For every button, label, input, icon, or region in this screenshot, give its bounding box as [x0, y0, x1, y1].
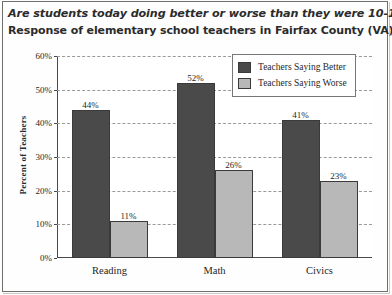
bar: 26%: [215, 170, 253, 258]
x-axis-category-label: Reading: [92, 265, 127, 276]
legend-label: Teachers Saying Worse: [258, 78, 347, 88]
bar: 11%: [110, 221, 148, 258]
bar: 41%: [282, 120, 320, 258]
y-axis-tick-label: 0%: [40, 253, 52, 263]
x-axis-category-label: Civics: [306, 265, 333, 276]
x-axis-category-label: Math: [203, 265, 225, 276]
bar: 52%: [177, 83, 215, 258]
chart-subtitle: Response of elementary school teachers i…: [8, 23, 380, 38]
y-axis-tick-label: 10%: [36, 219, 53, 229]
bar-value-label: 11%: [120, 211, 136, 221]
y-axis-tick-label: 30%: [36, 152, 53, 162]
chart-page: Are students today doing better or worse…: [0, 0, 392, 295]
bar: 23%: [320, 181, 358, 258]
legend-swatch: [238, 62, 251, 73]
legend-item: Teachers Saying Worse: [238, 75, 347, 91]
legend-item: Teachers Saying Better: [238, 59, 347, 75]
chart-legend: Teachers Saying BetterTeachers Saying Wo…: [232, 54, 356, 97]
y-axis-tick-label: 50%: [36, 85, 53, 95]
y-axis-tick-label: 40%: [36, 118, 53, 128]
bar-value-label: 26%: [225, 160, 242, 170]
bar-value-label: 44%: [82, 100, 99, 110]
bar-value-label: 41%: [292, 110, 309, 120]
y-axis-tick-label: 60%: [36, 51, 53, 61]
bar-value-label: 23%: [330, 171, 347, 181]
legend-swatch: [238, 78, 251, 89]
y-axis-tick-mark: [54, 258, 57, 259]
legend-label: Teachers Saying Better: [258, 62, 346, 72]
bar: 44%: [72, 110, 110, 258]
chart-title-block: Are students today doing better or worse…: [8, 7, 380, 38]
chart-title: Are students today doing better or worse…: [8, 7, 380, 21]
bar-value-label: 52%: [187, 73, 204, 83]
y-axis-title: Percent of Teachers: [18, 95, 28, 215]
y-axis-tick-label: 20%: [36, 186, 53, 196]
bar-group: 44%11%Reading: [57, 56, 162, 258]
